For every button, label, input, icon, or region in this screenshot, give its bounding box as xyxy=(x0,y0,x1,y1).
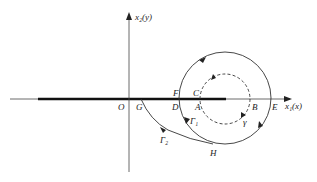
x-axis-label: x₁(x) xyxy=(284,101,302,111)
inner-arrow-top-icon xyxy=(211,74,216,80)
y-axis-label: x₂(y) xyxy=(134,12,152,22)
origin-label: O xyxy=(118,102,125,112)
gamma-label: γ xyxy=(243,117,247,127)
point-g-label: G xyxy=(136,102,143,112)
point-f-label: F xyxy=(172,88,179,98)
point-h-label: H xyxy=(209,148,217,158)
phase-portrait-diagram: x₂(y) x₁(x) O G F D C A B E H Γ₁ Γ₂ γ xyxy=(0,0,317,182)
gamma1-label: Γ₁ xyxy=(189,116,198,126)
gamma2-label: Γ₂ xyxy=(159,135,168,145)
point-b-label: B xyxy=(252,102,258,112)
point-c-label: C xyxy=(193,88,200,98)
point-a-label: A xyxy=(194,102,201,112)
point-e-label: E xyxy=(271,102,278,112)
point-d-label: D xyxy=(171,102,179,112)
y-axis-arrow-icon xyxy=(126,12,132,20)
